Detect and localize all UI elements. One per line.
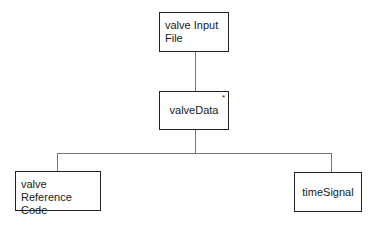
node-label-line2: File — [165, 32, 223, 45]
node-valve-reference-code[interactable]: valve Reference Code — [15, 171, 101, 211]
node-label: valveData — [170, 104, 219, 117]
edge-input-to-data — [195, 52, 196, 91]
edge-data-down — [195, 130, 196, 153]
edge-to-signal — [331, 153, 332, 172]
node-label: timeSignal — [302, 186, 353, 199]
node-valve-data[interactable]: valveData * — [159, 91, 229, 130]
node-time-signal[interactable]: timeSignal — [294, 172, 362, 212]
edge-to-ref — [57, 153, 58, 171]
node-label-line1: valve Input — [165, 19, 223, 32]
edge-branch-horizontal — [57, 153, 332, 154]
node-label-line2: Code — [21, 204, 95, 217]
node-valve-input-file[interactable]: valve Input File — [159, 12, 229, 52]
asterisk-marker-icon: * — [222, 94, 225, 102]
node-label-line1: valve Reference — [21, 178, 95, 204]
